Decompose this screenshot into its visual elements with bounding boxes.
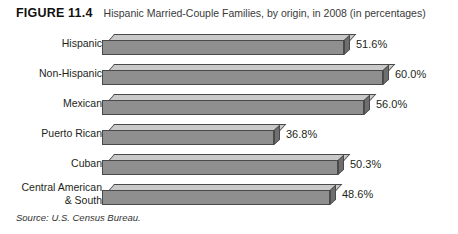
bar-value-label: 36.8% xyxy=(286,128,317,140)
chart-row: Puerto Rican36.8% xyxy=(0,120,458,150)
bar-value-label: 51.6% xyxy=(356,38,387,50)
bar-category-label: Central American & South xyxy=(0,181,102,206)
bar-front-face xyxy=(102,70,383,85)
figure-header: FIGURE 11.4 Hispanic Married-Couple Fami… xyxy=(0,0,458,26)
bar xyxy=(102,94,364,116)
bar-value-label: 48.6% xyxy=(342,188,373,200)
chart-row: Cuban50.3% xyxy=(0,150,458,180)
bar-front-face xyxy=(102,160,338,175)
bar-value-label: 56.0% xyxy=(376,98,407,110)
bar xyxy=(102,154,338,176)
bar xyxy=(102,184,330,206)
bar-category-label: Non-Hispanic xyxy=(0,67,102,80)
bar-front-face xyxy=(102,40,344,55)
figure-source: Source: U.S. Census Bureau. xyxy=(16,212,141,223)
chart-row: Non-Hispanic60.0% xyxy=(0,60,458,90)
bar-chart-plot-area: Hispanic51.6%Non-Hispanic60.0%Mexican56.… xyxy=(0,26,458,208)
bar-category-label: Hispanic xyxy=(0,37,102,50)
bar-front-face xyxy=(102,190,330,205)
bar xyxy=(102,124,274,146)
bar-value-label: 60.0% xyxy=(395,68,426,80)
bar-category-label: Mexican xyxy=(0,97,102,110)
bar-side-face xyxy=(330,185,336,205)
chart-row: Central American & South48.6% xyxy=(0,180,458,210)
bar xyxy=(102,64,383,86)
figure-title: Hispanic Married-Couple Families, by ori… xyxy=(104,7,426,19)
bar-category-label: Puerto Rican xyxy=(0,127,102,140)
bar-category-label: Cuban xyxy=(0,157,102,170)
chart-row: Hispanic51.6% xyxy=(0,30,458,60)
bar-front-face xyxy=(102,130,274,145)
bar-front-face xyxy=(102,100,364,115)
bar-value-label: 50.3% xyxy=(350,158,381,170)
bar-side-face xyxy=(364,95,370,115)
figure-number: FIGURE 11.4 xyxy=(16,6,93,20)
bar-side-face xyxy=(383,65,389,85)
bar xyxy=(102,34,344,56)
bar-side-face xyxy=(338,155,344,175)
bar-side-face xyxy=(344,35,350,55)
bar-side-face xyxy=(274,125,280,145)
chart-row: Mexican56.0% xyxy=(0,90,458,120)
